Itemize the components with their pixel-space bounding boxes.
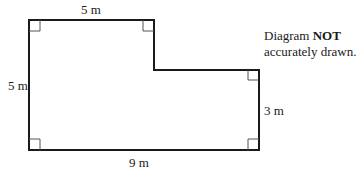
note-prefix: Diagram	[264, 28, 313, 43]
right-angle-marker-step	[248, 70, 259, 80]
not-to-scale-note: Diagram NOT accurately drawn.	[264, 28, 356, 60]
top-side-label: 5 m	[81, 3, 101, 16]
note-emphasis: NOT	[313, 28, 341, 43]
right-angle-marker-bottom-left	[29, 139, 40, 150]
note-suffix: accurately drawn.	[264, 44, 356, 59]
l-shape-diagram	[0, 0, 358, 170]
right-angle-marker-top-right	[143, 20, 154, 31]
right-angle-marker-bottom-right	[248, 139, 259, 150]
l-shape-outline	[29, 20, 259, 150]
bottom-side-label: 9 m	[129, 156, 149, 169]
left-side-label: 5 m	[8, 79, 28, 92]
right-angle-markers	[29, 20, 259, 150]
right-side-label: 3 m	[264, 104, 284, 117]
right-angle-marker-top-left	[29, 20, 40, 31]
